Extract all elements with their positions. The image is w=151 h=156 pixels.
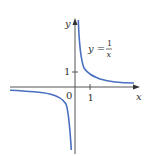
function-label-numerator: 1: [107, 39, 112, 48]
y-axis-label: y: [64, 18, 71, 29]
x-axis-label: x: [136, 91, 142, 102]
function-label-lhs: y =: [87, 43, 105, 54]
x-tick-label-1: 1: [88, 92, 94, 103]
function-label-denominator: x: [107, 50, 112, 59]
graph: y x 0 1 1 y = 1 x: [0, 0, 151, 156]
origin-label: 0: [66, 90, 72, 101]
x-axis-arrow-icon: [133, 85, 140, 90]
y-tick-label-1: 1: [64, 66, 70, 77]
curve-negative-branch: [10, 90, 71, 150]
y-axis-arrow-icon: [73, 18, 78, 25]
